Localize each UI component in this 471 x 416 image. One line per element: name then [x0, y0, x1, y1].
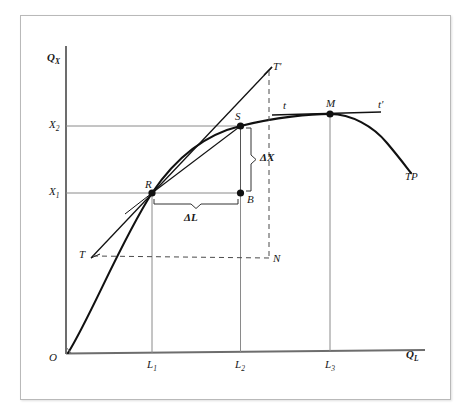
chord-R-extension [125, 193, 152, 214]
origin-label: O [49, 352, 57, 363]
y-tick-label-x1: X1 [49, 186, 59, 200]
point-R [148, 189, 155, 196]
y-tick-x2-sub: 2 [56, 124, 60, 133]
delta-x-brace [246, 128, 256, 191]
y-axis-label-text: Q [47, 51, 55, 63]
point-label-B: B [247, 194, 254, 205]
tangent-label-T: T [79, 249, 85, 260]
point-S [237, 122, 244, 129]
point-B [237, 189, 244, 196]
tangent-line-TTprime [91, 67, 272, 258]
tangent-label-t: t [283, 100, 286, 111]
chord-R-S [152, 126, 241, 193]
total-product-diagram [21, 16, 450, 399]
y-tick-label-x2: X2 [49, 119, 59, 133]
delta-l-brace [154, 199, 238, 209]
x-tick-label-l2: L2 [235, 359, 245, 373]
figure-frame: QX QL O X2 X1 L1 L2 L3 R S B M N T T' t … [20, 15, 451, 400]
tangent-tprime-tip [264, 67, 272, 75]
point-label-M: M [326, 98, 335, 109]
y-axis-label-sub: X [55, 57, 60, 66]
tangent-label-Tprime: T' [273, 61, 281, 72]
point-M [326, 110, 333, 117]
curve-label-tp: TP [405, 171, 418, 182]
y-tick-x1-sub: 1 [56, 191, 60, 200]
x-tick-l3-sub: 3 [331, 364, 335, 373]
x-tick-l2-sub: 2 [241, 364, 245, 373]
figure-page: QX QL O X2 X1 L1 L2 L3 R S B M N T T' t … [0, 0, 471, 416]
dashed-horizontal-T-N [93, 256, 269, 258]
y-tick-x2-text: X [49, 118, 56, 130]
x-tick-l1-sub: 1 [153, 364, 157, 373]
y-axis-label: QX [47, 52, 60, 66]
tp-curve [68, 114, 411, 353]
point-label-N: N [273, 253, 280, 264]
x-axis-label-sub: L [414, 354, 419, 363]
x-tick-label-l3: L3 [325, 359, 335, 373]
x-axis-label: QL [406, 349, 419, 363]
delta-x-label: ΔX [260, 152, 274, 163]
point-label-S: S [235, 111, 241, 122]
x-axis-label-text: Q [406, 348, 414, 360]
point-label-R: R [145, 179, 152, 190]
x-axis [66, 350, 425, 354]
x-tick-label-l1: L1 [147, 359, 157, 373]
delta-l-label: ΔL [184, 212, 198, 223]
y-tick-x1-text: X [49, 185, 56, 197]
tangent-label-tprime: t' [378, 99, 383, 110]
